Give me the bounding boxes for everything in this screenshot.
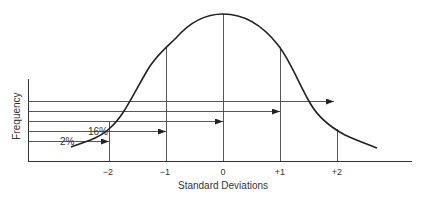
y-axis-label: Frequency xyxy=(11,92,22,139)
tick-minus1: −1 xyxy=(160,167,170,177)
tick-plus1: +1 xyxy=(275,167,285,177)
label-2-percent: 2% xyxy=(60,136,75,147)
label-16-percent: 16% xyxy=(88,126,108,137)
sd-lines xyxy=(110,14,338,161)
tick-0: 0 xyxy=(220,167,225,177)
tick-plus2: +2 xyxy=(332,167,342,177)
bell-curve xyxy=(71,14,377,148)
bell-curve-diagram: 2% 16% −2 −1 0 +1 +2 Standard Deviations… xyxy=(0,0,426,200)
x-axis-label: Standard Deviations xyxy=(178,180,268,191)
tick-minus2: −2 xyxy=(103,167,113,177)
